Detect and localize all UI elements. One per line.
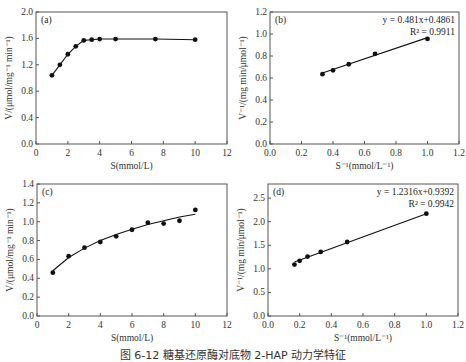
x-tick-label: 0.0 [264,148,276,158]
data-point [153,37,158,42]
y-tick-label: 1.5 [253,240,265,250]
x-axis-label: S(mmol/L) [110,161,152,172]
data-point [292,262,297,267]
y-tick-label: 0.6 [22,254,34,264]
fit-line [294,214,426,262]
x-tick-label: 0.2 [296,148,308,158]
x-tick-label: 0.4 [325,320,337,330]
data-point [345,240,350,245]
x-tick-label: 1.2 [453,148,465,158]
y-tick-label: 1.6 [21,33,33,43]
x-tick-label: 10 [190,148,200,158]
y-tick-label: 0.6 [255,73,267,83]
y-tick-label: 1.2 [21,60,33,70]
panel-a: 0246810120.00.40.81.21.62.0S(mmol/L)V/(μ… [4,7,232,172]
data-point [50,73,55,78]
x-axis-label: S⁻¹(mmol/L⁻¹) [334,333,392,344]
data-point [193,208,198,213]
y-tick-label: 0.0 [22,311,34,321]
figure-caption: 图 6-12 糖基还原酶对底物 2-HAP 动力学特征 [0,346,466,362]
x-tick-label: 6 [130,320,135,330]
data-point [373,51,378,56]
y-tick-label: 0.4 [21,113,33,123]
y-tick-label: 1.2 [22,198,34,208]
y-tick-label: 2.0 [21,7,33,17]
plot-frame [37,184,227,316]
x-axis-label: S(mmol/L) [111,333,153,344]
panel-label: (c) [42,187,53,198]
x-axis-label: S⁻¹(mmol/L⁻¹) [336,161,394,172]
data-point [130,227,135,232]
plot-frame [36,12,227,144]
y-tick-label: 1.0 [255,29,267,39]
x-tick-label: 8 [161,148,166,158]
data-point [114,234,119,239]
data-point [113,37,118,42]
y-tick-label: 1.2 [255,7,267,17]
data-point [97,37,102,42]
y-tick-label: 0.8 [255,51,267,61]
x-tick-label: 0.0 [262,320,274,330]
y-tick-label: 0.4 [22,273,34,283]
data-point [145,220,150,225]
y-tick-label: 0.2 [255,117,267,127]
panel-b: 0.00.20.40.60.81.01.20.00.20.40.60.81.01… [238,7,465,172]
y-tick-label: 0.8 [21,86,33,96]
data-point [297,258,302,263]
data-point [331,68,336,73]
y-tick-label: 0.2 [22,292,34,302]
panel-label: (a) [41,15,52,26]
data-point [89,37,94,42]
data-point [305,254,310,259]
x-tick-label: 1.0 [420,320,432,330]
y-tick-label: 0.0 [255,139,267,149]
x-tick-label: 8 [161,320,166,330]
y-tick-label: 0.0 [21,139,33,149]
fit-equation: y = 0.481x+0.4861 [383,15,456,25]
x-tick-label: 10 [191,320,201,330]
x-tick-label: 0.8 [389,320,401,330]
y-tick-label: 0.8 [22,236,34,246]
x-tick-label: 0.6 [359,148,371,158]
data-point [425,37,430,42]
data-point [82,245,87,250]
y-tick-label: 2.0 [253,217,265,227]
x-tick-label: 12 [222,320,232,330]
fit-equation: y = 1.2316x+0.9392 [377,187,454,197]
x-tick-label: 1.0 [422,148,434,158]
x-tick-label: 2 [66,320,71,330]
y-tick-label: 0.0 [253,311,265,321]
data-point [424,211,429,216]
r-squared: R² = 0.9911 [410,27,455,37]
data-point [193,37,198,42]
x-tick-label: 0 [34,148,39,158]
data-point [65,52,70,57]
data-point [318,249,323,254]
data-point [81,38,86,43]
panel-d: 0.00.20.40.60.81.01.20.00.51.01.52.02.5S… [236,184,464,344]
x-tick-label: 0.8 [390,148,402,158]
y-tick-label: 0.5 [253,287,265,297]
y-tick-label: 1.0 [22,217,34,227]
data-point [320,72,325,77]
y-axis-label: V⁻¹/(mg min/μmol⁻¹) [238,36,249,119]
panel-c: 0246810120.00.20.40.60.81.01.21.4S(mmol/… [5,179,232,344]
x-tick-label: 2 [65,148,70,158]
data-point [50,270,55,275]
x-tick-label: 4 [98,320,103,330]
panel-label: (d) [273,187,284,198]
y-axis-label: V/(μmol/mg⁻¹ min⁻¹) [4,36,15,119]
y-axis-label: V/(μmol/mg⁻¹ min⁻¹) [5,208,16,291]
series-line [52,39,195,75]
y-tick-label: 2.5 [253,193,265,203]
data-point [66,254,71,259]
x-tick-label: 1.2 [452,320,464,330]
data-point [346,62,351,67]
x-tick-label: 4 [97,148,102,158]
data-point [98,240,103,245]
panel-label: (b) [275,15,286,26]
data-point [57,62,62,67]
x-tick-label: 12 [222,148,232,158]
r-squared: R² = 0.9942 [409,199,455,209]
